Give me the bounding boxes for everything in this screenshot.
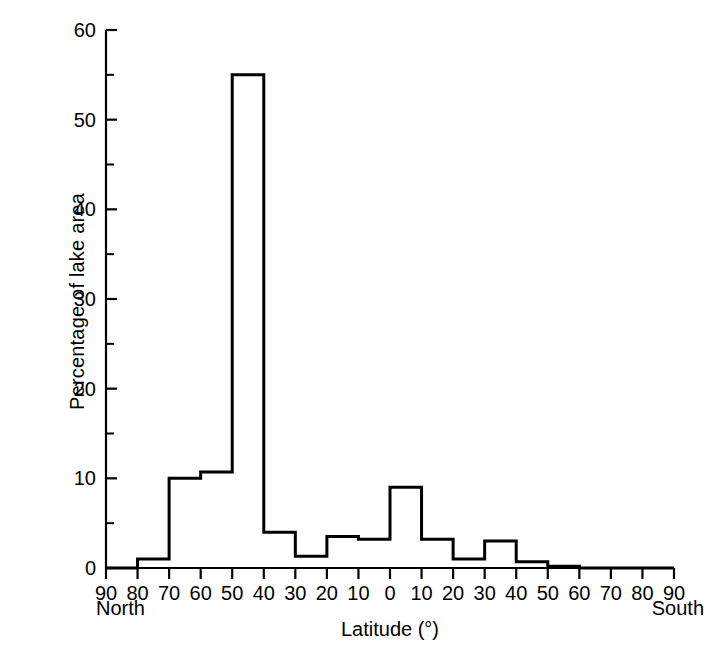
- plot-area: [0, 0, 712, 657]
- x-axis-title: Latitude (°): [106, 618, 674, 641]
- x-axis-tick-label: 90: [654, 583, 694, 603]
- y-axis-tick-label: 0: [52, 558, 96, 578]
- histogram-step-outline: [106, 75, 674, 568]
- y-axis-tick-label: 20: [52, 379, 96, 399]
- y-axis-tick-label: 30: [52, 289, 96, 309]
- y-axis-tick-label: 40: [52, 199, 96, 219]
- y-axis-tick-label: 60: [52, 20, 96, 40]
- y-axis-tick-label: 50: [52, 110, 96, 130]
- latitude-lake-area-histogram: Percentage of lake area Latitude (°) Nor…: [0, 0, 712, 657]
- y-axis-tick-label: 10: [52, 468, 96, 488]
